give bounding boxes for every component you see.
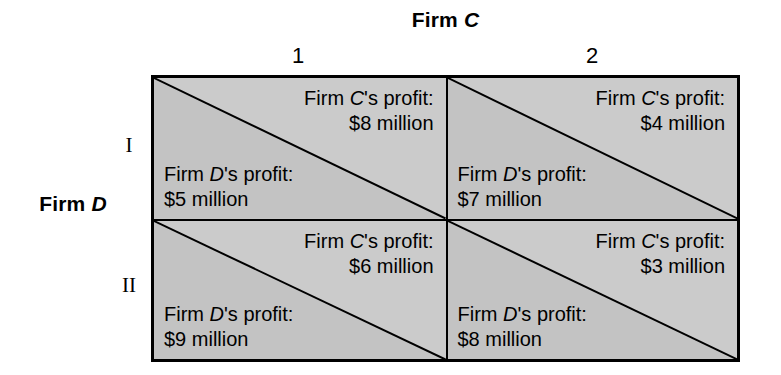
column-payoff-label-symbol: C [641, 230, 655, 252]
column-player-prefix: Firm [412, 8, 458, 31]
row-strategy-label-ii: II [112, 273, 146, 298]
row-player-payoff-i-1: Firm D's profit: $5 million [164, 162, 293, 212]
row-payoff-label-symbol: D [210, 303, 224, 325]
column-player-symbol: C [464, 8, 479, 31]
row-payoff-label-suffix: 's profit: [224, 163, 293, 185]
row-payoff-label-symbol: D [503, 303, 517, 325]
column-player-payoff-i-1: Firm C's profit: $8 million [304, 86, 433, 136]
column-player-payoff-i-2: Firm C's profit: $4 million [596, 86, 725, 136]
column-player-payoff-ii-2: Firm C's profit: $3 million [596, 229, 725, 279]
row-player-payoff-i-2: Firm D's profit: $7 million [458, 162, 587, 212]
column-payoff-label-symbol: C [350, 230, 364, 252]
row-payoff-label-suffix: 's profit: [518, 303, 587, 325]
payoff-cell-ii-1[interactable]: Firm C's profit: $6 million Firm D's pro… [154, 219, 446, 360]
column-payoff-label-prefix: Firm [304, 230, 350, 252]
column-payoff-label-suffix: 's profit: [364, 230, 433, 252]
column-strategy-label-1: 1 [151, 43, 445, 69]
column-payoff-label-prefix: Firm [596, 230, 642, 252]
row-player-payoff-ii-1: Firm D's profit: $9 million [164, 302, 293, 352]
row-strategy-label-i: I [112, 133, 146, 158]
column-payoff-label-prefix: Firm [596, 87, 642, 109]
column-player-payoff-ii-1: Firm C's profit: $6 million [304, 229, 433, 279]
row-player-title: Firm D [18, 192, 128, 216]
row-payoff-label-suffix: 's profit: [224, 303, 293, 325]
row-payoff-value: $5 million [164, 188, 248, 210]
row-payoff-label-prefix: Firm [458, 303, 504, 325]
row-payoff-value: $9 million [164, 328, 248, 350]
row-player-symbol: D [91, 192, 106, 215]
row-payoff-label-prefix: Firm [458, 163, 504, 185]
column-payoff-label-symbol: C [350, 87, 364, 109]
row-payoff-label-symbol: D [503, 163, 517, 185]
column-payoff-label-symbol: C [641, 87, 655, 109]
row-payoff-value: $7 million [458, 188, 542, 210]
row-player-prefix: Firm [39, 192, 85, 215]
column-payoff-value: $3 million [641, 255, 725, 277]
column-payoff-label-prefix: Firm [304, 87, 350, 109]
payoff-cell-i-2[interactable]: Firm C's profit: $4 million Firm D's pro… [446, 78, 738, 219]
row-payoff-label-symbol: D [210, 163, 224, 185]
column-strategy-label-2: 2 [445, 43, 739, 69]
column-payoff-value: $4 million [641, 112, 725, 134]
column-payoff-label-suffix: 's profit: [364, 87, 433, 109]
row-payoff-label-prefix: Firm [164, 163, 210, 185]
row-payoff-value: $8 million [458, 328, 542, 350]
payoff-matrix: Firm C's profit: $8 million Firm D's pro… [151, 75, 740, 362]
row-payoff-label-suffix: 's profit: [518, 163, 587, 185]
payoff-cell-i-1[interactable]: Firm C's profit: $8 million Firm D's pro… [154, 78, 446, 219]
payoff-cell-ii-2[interactable]: Firm C's profit: $3 million Firm D's pro… [446, 219, 738, 360]
row-payoff-label-prefix: Firm [164, 303, 210, 325]
column-payoff-label-suffix: 's profit: [656, 230, 725, 252]
column-player-title: Firm C [151, 8, 740, 32]
column-payoff-value: $8 million [349, 112, 433, 134]
row-player-payoff-ii-2: Firm D's profit: $8 million [458, 302, 587, 352]
column-payoff-value: $6 million [349, 255, 433, 277]
column-payoff-label-suffix: 's profit: [656, 87, 725, 109]
